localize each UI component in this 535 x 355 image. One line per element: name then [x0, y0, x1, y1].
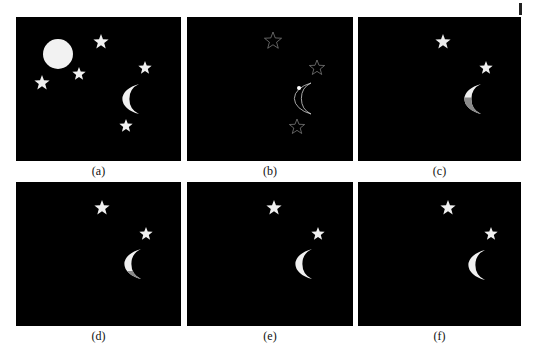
- crescent-shaded-region: [446, 79, 486, 119]
- panel-c: [358, 17, 521, 161]
- panel-f: [358, 182, 521, 326]
- crescent-moon-icon: [295, 249, 312, 279]
- panel-c-caption: (c): [410, 164, 470, 178]
- star-icon: [139, 227, 152, 240]
- star-icon: [289, 119, 304, 133]
- star-icon: [309, 60, 324, 74]
- panel-b: [187, 17, 353, 161]
- crescent-moon-icon: [122, 84, 139, 114]
- star-icon: [484, 227, 497, 240]
- panel-f-caption: (f): [410, 329, 470, 343]
- star-icon: [72, 67, 85, 80]
- star-icon: [479, 61, 492, 74]
- star-icon: [94, 200, 109, 214]
- panel-e-canvas: [187, 182, 353, 326]
- crescent-moon-icon: [468, 250, 485, 280]
- star-icon: [266, 200, 281, 214]
- star-icon: [311, 227, 324, 240]
- panel-d-canvas: [16, 182, 181, 326]
- crescent-shaded-region: [106, 271, 146, 284]
- panel-c-canvas: [358, 17, 521, 161]
- star-icon: [264, 32, 281, 48]
- panel-d: [16, 182, 181, 326]
- seed-point-marker: [297, 86, 301, 90]
- crescent-moon-icon: [446, 79, 486, 119]
- panel-a-canvas: [16, 17, 181, 161]
- panel-a: [16, 17, 181, 161]
- page-edge-mark: [519, 3, 522, 15]
- star-icon: [93, 34, 108, 48]
- panel-b-canvas: [187, 17, 353, 161]
- star-icon: [435, 34, 450, 48]
- star-icon: [138, 61, 151, 74]
- panel-a-caption: (a): [69, 164, 129, 178]
- full-moon-icon: [43, 39, 73, 69]
- crescent-moon-icon: [106, 249, 146, 284]
- star-icon: [119, 119, 132, 132]
- panel-e: [187, 182, 353, 326]
- panel-b-caption: (b): [240, 164, 300, 178]
- panel-f-canvas: [358, 182, 521, 326]
- panel-e-caption: (e): [240, 329, 300, 343]
- star-icon: [34, 75, 49, 89]
- star-icon: [440, 200, 455, 214]
- crescent-moon-icon: [294, 83, 311, 114]
- panel-d-caption: (d): [69, 329, 129, 343]
